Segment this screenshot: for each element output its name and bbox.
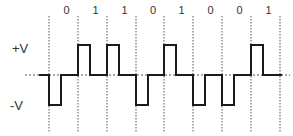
bit-label: 1 xyxy=(178,4,184,16)
high-level-label: +V xyxy=(12,41,29,56)
bit-label: 0 xyxy=(63,4,69,16)
bit-label: 1 xyxy=(265,4,271,16)
bit-label: 0 xyxy=(150,4,156,16)
bit-label: 0 xyxy=(207,4,213,16)
low-level-label: -V xyxy=(10,98,23,113)
bit-label: 1 xyxy=(92,4,98,16)
bit-label: 1 xyxy=(121,4,127,16)
bit-label: 0 xyxy=(236,4,242,16)
bit-labels: 01101001 xyxy=(63,4,271,16)
signal-diagram: 01101001 +V -V xyxy=(0,0,293,136)
signal-waveform xyxy=(39,45,282,105)
